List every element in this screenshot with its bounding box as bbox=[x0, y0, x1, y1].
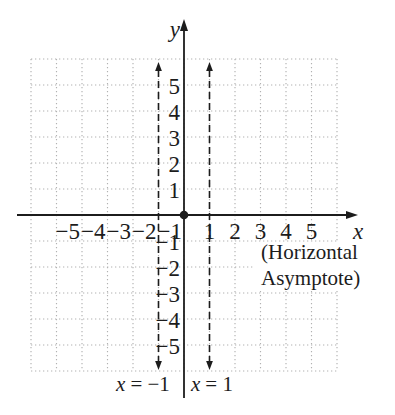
x-tick-neg5: −5 bbox=[56, 219, 80, 244]
axes bbox=[17, 19, 358, 398]
x-tick-neg2: −2 bbox=[132, 219, 156, 244]
variable-x: x bbox=[115, 372, 126, 396]
y-tick-neg5: −5 bbox=[156, 334, 180, 359]
y-axis-label: y bbox=[168, 17, 181, 42]
x-tick-neg3: −3 bbox=[107, 219, 131, 244]
x-axis-arrow-icon bbox=[346, 211, 358, 219]
y-tick-neg4: −4 bbox=[156, 308, 181, 333]
y-tick-4: 4 bbox=[169, 100, 181, 125]
vertical-asymptote-line-x-1 bbox=[206, 62, 213, 370]
variable-x: x bbox=[190, 372, 201, 396]
y-axis-arrow-icon bbox=[180, 19, 188, 31]
origin-point bbox=[180, 211, 189, 220]
y-tick-neg3: −3 bbox=[156, 282, 180, 307]
y-tick-3: 3 bbox=[169, 126, 181, 151]
y-tick-5: 5 bbox=[169, 74, 181, 99]
equation-rest: = 1 bbox=[205, 372, 233, 396]
arrow-up-icon bbox=[206, 62, 213, 71]
horizontal-asymptote-note-line2: Asymptote) bbox=[261, 266, 360, 290]
equation-rest: = −1 bbox=[130, 372, 169, 396]
horizontal-asymptote-note-line1: (Horizontal bbox=[261, 240, 358, 264]
y-tick-neg1: −1 bbox=[156, 230, 180, 255]
arrow-up-icon bbox=[155, 62, 162, 71]
y-tick-neg2: −2 bbox=[156, 256, 180, 281]
x-tick-neg4: −4 bbox=[81, 219, 106, 244]
y-tick-2: 2 bbox=[169, 152, 181, 177]
vertical-asymptote-label-left: x= −1 bbox=[115, 372, 170, 396]
arrow-down-icon bbox=[206, 361, 213, 370]
x-tick-2: 2 bbox=[229, 219, 241, 244]
vertical-asymptote-label-right: x= 1 bbox=[190, 372, 233, 396]
figure-canvas: y x −5 −4 −3 −2 −1 1 2 3 4 5 5 4 3 2 1 −… bbox=[0, 0, 395, 415]
arrow-down-icon bbox=[155, 361, 162, 370]
coordinate-plane-figure: y x −5 −4 −3 −2 −1 1 2 3 4 5 5 4 3 2 1 −… bbox=[0, 0, 395, 415]
x-tick-1: 1 bbox=[204, 219, 216, 244]
y-tick-1: 1 bbox=[169, 178, 181, 203]
